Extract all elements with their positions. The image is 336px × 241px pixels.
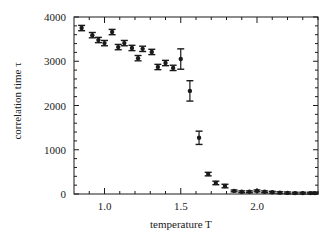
svg-text:3000: 3000: [44, 55, 67, 67]
axis-ticks: [74, 17, 318, 194]
data-points: [78, 25, 318, 195]
data-point: [170, 65, 177, 70]
data-point: [115, 44, 122, 49]
data-point: [205, 172, 212, 176]
y-axis-label: correlation time τ: [11, 36, 23, 166]
x-axis-label: temperature T: [150, 218, 212, 230]
data-point: [238, 190, 245, 194]
tick-labels: 010002000300040001.01.52.0: [44, 11, 264, 212]
data-point: [299, 191, 306, 195]
data-point: [261, 190, 268, 194]
correlation-time-chart: 010002000300040001.01.52.0: [0, 0, 336, 241]
data-point: [177, 49, 184, 69]
data-point: [162, 60, 169, 65]
data-point: [128, 45, 135, 50]
data-point: [292, 191, 299, 195]
data-point: [101, 40, 108, 45]
data-point: [154, 64, 161, 69]
data-point: [148, 49, 155, 54]
data-point: [121, 40, 128, 45]
svg-text:1.0: 1.0: [98, 200, 112, 212]
svg-text:1000: 1000: [44, 144, 67, 156]
data-point: [276, 190, 283, 194]
data-point: [231, 189, 238, 193]
data-point: [254, 189, 261, 193]
data-point: [269, 190, 276, 194]
data-point: [89, 32, 96, 37]
svg-text:0: 0: [61, 188, 67, 200]
svg-text:2.0: 2.0: [250, 200, 264, 212]
data-point: [246, 190, 253, 194]
data-point: [186, 81, 193, 101]
svg-text:4000: 4000: [44, 11, 67, 23]
svg-text:2000: 2000: [44, 100, 67, 112]
svg-text:1.5: 1.5: [174, 200, 188, 212]
data-point: [284, 191, 291, 195]
data-point: [78, 25, 85, 30]
data-point: [221, 184, 228, 188]
data-point: [212, 181, 219, 185]
data-point: [95, 37, 102, 42]
data-point: [139, 46, 146, 51]
data-point: [135, 55, 142, 60]
data-point: [109, 29, 116, 34]
data-point: [196, 131, 203, 144]
plot-frame: [74, 17, 318, 194]
x-axis-label-text: temperature T: [150, 218, 212, 230]
